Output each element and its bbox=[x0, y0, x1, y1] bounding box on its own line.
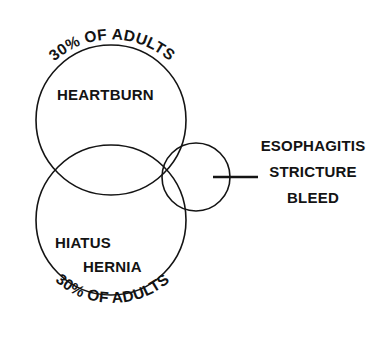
circle-heartburn bbox=[36, 45, 186, 195]
arc-label-bottom-text: 30% OF ADULTS bbox=[53, 270, 172, 306]
venn-diagram-canvas: 30% OF ADULTS 30% OF ADULTS HEARTBURN HI… bbox=[0, 0, 383, 353]
label-hernia: HERNIA bbox=[83, 258, 142, 275]
label-hiatus: HIATUS bbox=[55, 234, 111, 251]
callout-line-stricture: STRICTURE bbox=[269, 163, 357, 180]
arc-label-bottom-percentage: 30% OF ADULTS bbox=[53, 270, 172, 306]
label-heartburn: HEARTBURN bbox=[57, 86, 154, 103]
callout-line-bleed: BLEED bbox=[287, 189, 339, 206]
callout-line-esophagitis: ESOPHAGITIS bbox=[261, 137, 366, 154]
venn-diagram-svg: 30% OF ADULTS 30% OF ADULTS HEARTBURN HI… bbox=[0, 0, 383, 353]
